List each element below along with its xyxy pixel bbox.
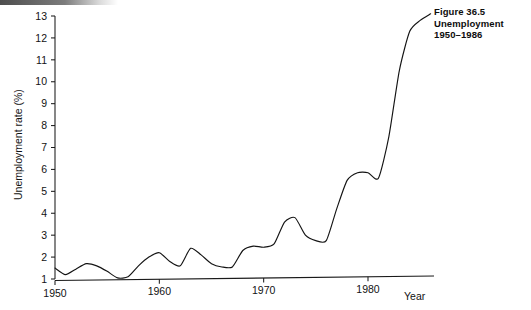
y-tick-label-4: 4 [41,207,47,219]
x-tick-label-1970: 1970 [252,284,276,296]
y-axis-title: Unemployment rate (%) [12,89,24,200]
chart-svg: 12345678910111213 1950196019701980 Unemp… [0,0,531,310]
y-tick-label-13: 13 [35,10,47,22]
y-tick-label-11: 11 [36,54,47,66]
unemployment-rate-line [55,14,431,278]
y-tick-label-3: 3 [41,229,47,241]
y-axis-tick-labels: 12345678910111213 [35,10,47,285]
y-tick-label-5: 5 [41,185,47,197]
y-tick-label-2: 2 [41,251,47,263]
x-axis-title: Year [404,290,426,302]
y-tick-label-6: 6 [41,163,47,175]
y-tick-label-9: 9 [41,97,47,109]
y-tick-label-10: 10 [35,75,47,87]
y-tick-label-8: 8 [41,119,47,131]
x-tick-label-1960: 1960 [148,285,172,297]
x-axis-line [55,276,434,281]
x-tick-label-1980: 1980 [356,283,380,295]
y-tick-label-7: 7 [41,141,47,153]
line-chart: 12345678910111213 1950196019701980 Unemp… [0,0,531,310]
x-tick-label-1950: 1950 [43,287,67,299]
y-axis-ticks [51,16,55,279]
y-axis: 12345678910111213 [35,10,55,285]
figure-root: Figure 36.5 Unemployment 1950–1986 12345… [0,0,531,310]
x-axis: 1950196019701980 [43,276,434,299]
y-tick-label-12: 12 [35,32,47,44]
x-axis-ticks [55,277,368,285]
y-tick-label-1: 1 [41,273,47,285]
x-axis-tick-labels: 1950196019701980 [43,283,380,299]
